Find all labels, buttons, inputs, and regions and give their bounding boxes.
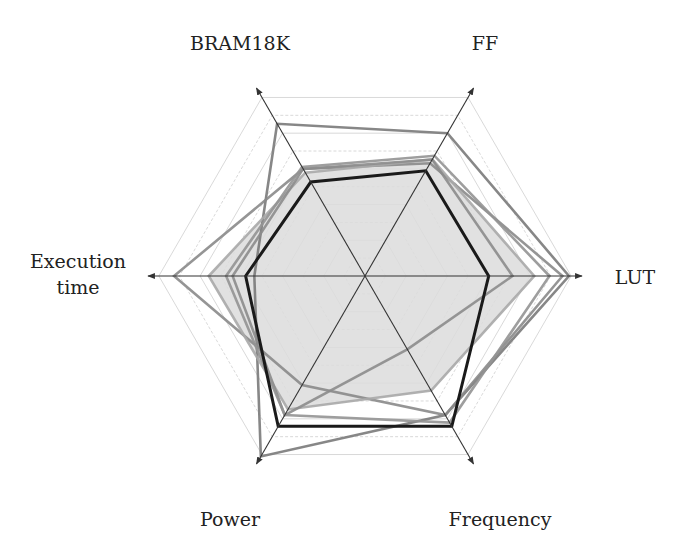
axis-label-frequency: Frequency bbox=[435, 506, 565, 532]
axis-label-lut: LUT bbox=[605, 264, 665, 290]
axis-label-execution-time: Execution time bbox=[18, 248, 138, 300]
axis-label-power: Power bbox=[180, 506, 280, 532]
radar-axes bbox=[148, 88, 582, 464]
axis-label-bram18k: BRAM18K bbox=[170, 30, 310, 56]
axis-label-ff: FF bbox=[455, 30, 515, 56]
